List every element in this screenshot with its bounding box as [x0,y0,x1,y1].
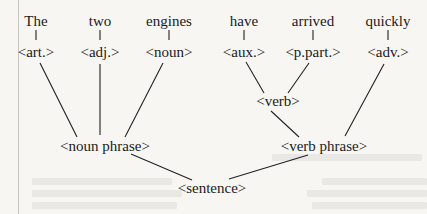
edge-adv-to-vp [345,64,384,136]
word-the: The [24,13,48,29]
node-noun: <noun> [146,44,193,60]
tree-svg: The two engines have arrived quickly <ar… [0,0,427,214]
node-art: <art.> [18,44,55,60]
node-verb: <verb> [256,93,300,109]
word-quickly: quickly [366,13,411,29]
parse-tree-diagram: The two engines have arrived quickly <ar… [0,0,427,214]
edge-verb-to-vp [271,111,299,137]
edge-aux-to-verb [246,62,264,93]
node-noun-phrase: <noun phrase> [60,138,150,154]
node-adv: <adv.> [367,44,408,60]
edge-art-to-np [40,63,77,137]
node-adj: <adj.> [81,44,120,60]
word-engines: engines [146,13,192,29]
node-ppart: <p.part.> [285,44,340,60]
edge-ppart-to-verb [288,63,309,93]
word-two: two [89,13,112,29]
edge-np-to-s [131,154,192,180]
edge-noun-to-np [125,63,163,137]
node-verb-phrase: <verb phrase> [281,138,367,154]
node-sentence: <sentence> [178,180,247,196]
word-arrived: arrived [292,13,335,29]
word-have: have [230,13,259,29]
node-aux: <aux.> [223,44,265,60]
edge-vp-to-s [229,155,308,179]
